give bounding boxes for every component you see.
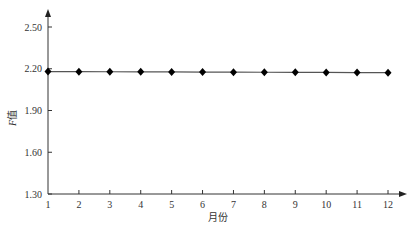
x-tick-label: 2 bbox=[76, 199, 81, 210]
x-tick-label: 10 bbox=[321, 199, 331, 210]
x-axis-title: 月份 bbox=[208, 212, 228, 223]
diamond-marker-icon bbox=[385, 69, 392, 77]
diamond-marker-icon bbox=[137, 68, 144, 76]
y-tick-label: 2.50 bbox=[25, 22, 43, 33]
x-tick-label: 4 bbox=[138, 199, 143, 210]
y-axis-title-rest: 值 bbox=[6, 110, 18, 120]
diamond-marker-icon bbox=[354, 69, 361, 77]
x-tick-label: 1 bbox=[46, 199, 51, 210]
x-tick-label: 3 bbox=[107, 199, 112, 210]
y-tick-label: 1.60 bbox=[25, 147, 43, 158]
series-line bbox=[48, 72, 388, 73]
line-chart: 1.301.601.902.202.50 123456789101112 月份 … bbox=[0, 0, 414, 232]
diamond-marker-icon bbox=[323, 68, 330, 76]
x-tick-label: 8 bbox=[262, 199, 267, 210]
diamond-marker-icon bbox=[199, 68, 206, 76]
x-tick-label: 9 bbox=[293, 199, 298, 210]
x-axis-ticks: 123456789101112 bbox=[46, 190, 394, 210]
diamond-marker-icon bbox=[75, 68, 82, 76]
diamond-marker-icon bbox=[230, 68, 237, 76]
x-axis-arrow-icon bbox=[399, 191, 407, 197]
y-axis-arrow-icon bbox=[45, 9, 51, 17]
x-tick-label: 6 bbox=[200, 199, 205, 210]
x-tick-label: 7 bbox=[231, 199, 236, 210]
diamond-marker-icon bbox=[168, 68, 175, 76]
x-tick-label: 11 bbox=[352, 199, 362, 210]
axes bbox=[45, 9, 407, 197]
diamond-marker-icon bbox=[292, 68, 299, 76]
diamond-marker-icon bbox=[261, 68, 268, 76]
x-tick-label: 5 bbox=[169, 199, 174, 210]
y-tick-label: 1.90 bbox=[25, 105, 43, 116]
x-tick-label: 12 bbox=[383, 199, 393, 210]
y-axis-title: F值 bbox=[6, 110, 18, 127]
diamond-marker-icon bbox=[106, 68, 113, 76]
data-series bbox=[45, 68, 392, 77]
y-tick-label: 1.30 bbox=[25, 189, 43, 200]
y-tick-label: 2.20 bbox=[25, 63, 43, 74]
